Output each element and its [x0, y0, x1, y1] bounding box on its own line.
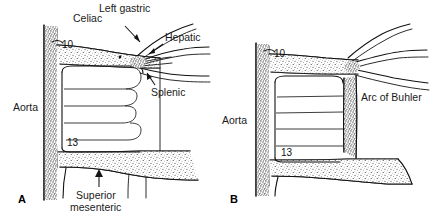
panel-a-aorta-label: Aorta	[13, 101, 38, 113]
figure-canvas: Aorta Celiac Left gastric Hepatic Spleni…	[0, 0, 433, 215]
panel-a-hepatic-label: Hepatic	[165, 31, 201, 43]
panel-a-superior-label: Superior	[76, 189, 116, 201]
panel-a-marker-13: 13	[67, 137, 79, 148]
panel-b-celiac-branches	[344, 24, 429, 90]
panel-b-arc-of-buhler	[344, 76, 357, 158]
panel-a-celiac-label: Celiac	[73, 12, 102, 24]
panel-a-aorta-vessel	[44, 25, 57, 200]
panel-b: Aorta Arc of Buhler 10 13 B	[222, 24, 429, 205]
panel-b-letter: B	[230, 193, 238, 205]
panel-b-marker-13: 13	[281, 147, 293, 158]
panel-b-aorta-label: Aorta	[222, 114, 247, 126]
panel-a-marker-10: 10	[62, 39, 74, 50]
panel-b-arc-of-buhler-label: Arc of Buhler	[361, 91, 422, 103]
panel-b-marker-10: 10	[274, 48, 286, 59]
panel-a-letter: A	[18, 193, 26, 205]
panel-a-splenic-label: Splenic	[151, 86, 185, 98]
panel-a-left-gastric-label: Left gastric	[99, 2, 150, 14]
anatomical-figure: Aorta Celiac Left gastric Hepatic Spleni…	[0, 0, 433, 215]
panel-a: Aorta Celiac Left gastric Hepatic Spleni…	[13, 2, 210, 213]
panel-b-superior-mesenteric-trunk	[270, 159, 412, 196]
panel-a-mesenteric-label: mesenteric	[70, 201, 121, 213]
panel-b-aorta-vessel	[256, 43, 269, 196]
